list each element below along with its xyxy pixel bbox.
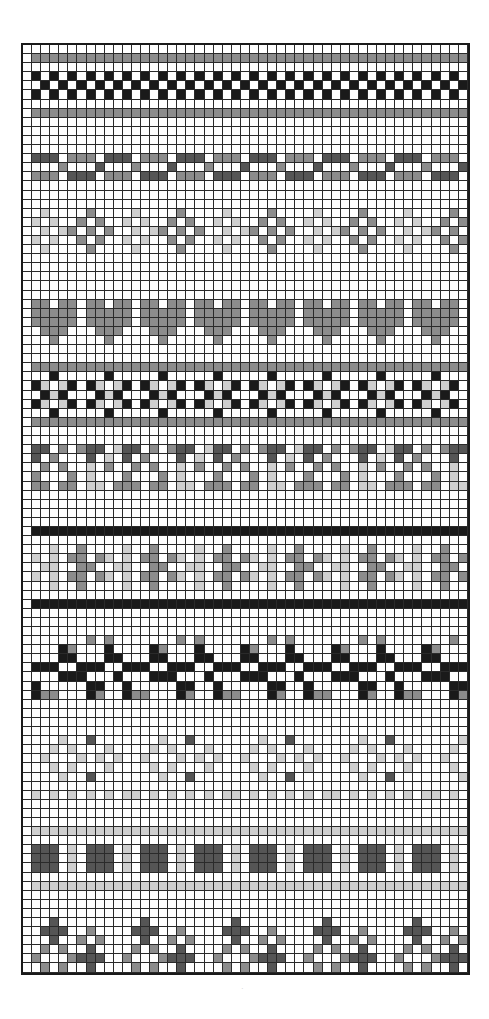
grid-cell — [295, 354, 304, 363]
grid-cell — [277, 318, 286, 327]
grid-cell — [432, 582, 441, 591]
grid-cell — [441, 782, 450, 791]
grid-cell — [96, 845, 105, 854]
grid-cell — [422, 645, 431, 654]
grid-cell — [350, 154, 359, 163]
grid-cell — [368, 409, 377, 418]
grid-cell — [377, 663, 386, 672]
grid-cell — [205, 209, 214, 218]
grid-cell — [68, 118, 77, 127]
grid-cell — [332, 63, 341, 72]
grid-cell — [386, 491, 395, 500]
grid-cell — [250, 472, 259, 481]
grid-cell — [96, 873, 105, 882]
grid-cell — [386, 336, 395, 345]
grid-cell — [32, 582, 41, 591]
grid-cell — [132, 745, 141, 754]
grid-cell — [459, 600, 468, 609]
grid-cell — [404, 909, 413, 918]
grid-cell — [395, 45, 404, 54]
grid-cell — [50, 845, 59, 854]
grid-cell — [268, 281, 277, 290]
grid-cell — [286, 281, 295, 290]
grid-cell — [150, 645, 159, 654]
grid-cell — [386, 954, 395, 963]
grid-cell — [259, 418, 268, 427]
grid-cell — [32, 591, 41, 600]
grid-cell — [286, 763, 295, 772]
grid-cell — [395, 918, 404, 927]
grid-cell — [241, 791, 250, 800]
grid-cell — [50, 445, 59, 454]
grid-cell — [386, 90, 395, 99]
grid-cell — [359, 791, 368, 800]
grid-cell — [286, 254, 295, 263]
grid-cell — [359, 372, 368, 381]
grid-cell — [32, 281, 41, 290]
grid-cell — [241, 691, 250, 700]
grid-cell — [459, 263, 468, 272]
grid-cell — [441, 100, 450, 109]
grid-cell — [404, 600, 413, 609]
grid-cell — [432, 609, 441, 618]
grid-cell — [23, 45, 32, 54]
grid-cell — [50, 691, 59, 700]
grid-cell — [132, 454, 141, 463]
grid-cell — [32, 545, 41, 554]
grid-cell — [159, 454, 168, 463]
grid-cell — [368, 300, 377, 309]
grid-cell — [368, 773, 377, 782]
grid-cell — [323, 491, 332, 500]
grid-cell — [159, 654, 168, 663]
grid-cell — [87, 672, 96, 681]
grid-cell — [214, 627, 223, 636]
grid-cell — [50, 763, 59, 772]
grid-cell — [159, 536, 168, 545]
grid-cell — [186, 672, 195, 681]
grid-cell — [150, 536, 159, 545]
grid-cell — [123, 782, 132, 791]
grid-cell — [195, 191, 204, 200]
grid-cell — [350, 745, 359, 754]
grid-cell — [404, 873, 413, 882]
grid-cell — [41, 754, 50, 763]
grid-cell — [186, 509, 195, 518]
grid-cell — [359, 409, 368, 418]
grid-cell — [413, 345, 422, 354]
grid-cell — [350, 427, 359, 436]
grid-cell — [77, 718, 86, 727]
grid-cell — [177, 800, 186, 809]
grid-cell — [368, 754, 377, 763]
grid-cell — [459, 309, 468, 318]
grid-cell — [195, 854, 204, 863]
grid-cell — [232, 100, 241, 109]
grid-cell — [205, 554, 214, 563]
grid-cell — [168, 572, 177, 581]
grid-cell — [377, 609, 386, 618]
grid-cell — [59, 773, 68, 782]
grid-cell — [359, 754, 368, 763]
grid-cell — [141, 109, 150, 118]
grid-cell — [395, 536, 404, 545]
grid-cell — [68, 645, 77, 654]
grid-cell — [50, 882, 59, 891]
grid-cell — [223, 709, 232, 718]
grid-cell — [314, 554, 323, 563]
grid-cell — [259, 109, 268, 118]
grid-cell — [214, 54, 223, 63]
grid-cell — [441, 318, 450, 327]
grid-cell — [450, 773, 459, 782]
grid-cell — [87, 291, 96, 300]
grid-cell — [32, 209, 41, 218]
grid-cell — [186, 754, 195, 763]
grid-cell — [87, 445, 96, 454]
grid-cell — [114, 818, 123, 827]
grid-cell — [114, 109, 123, 118]
grid-cell — [105, 354, 114, 363]
grid-cell — [32, 773, 41, 782]
grid-cell — [177, 45, 186, 54]
grid-cell — [195, 445, 204, 454]
grid-cell — [404, 363, 413, 372]
grid-cell — [304, 454, 313, 463]
grid-cell — [223, 827, 232, 836]
